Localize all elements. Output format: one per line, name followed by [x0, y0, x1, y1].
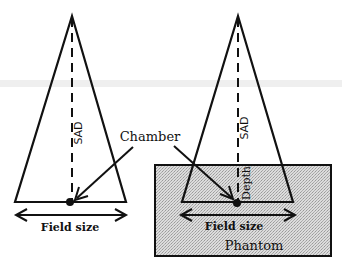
- depth-label: Depth: [240, 166, 253, 200]
- right-field-size-label: Field size: [205, 220, 263, 233]
- chamber-label: Chamber: [120, 129, 181, 144]
- left-setup: Field size SAD: [15, 16, 126, 234]
- phantom-label: Phantom: [225, 238, 284, 253]
- left-sad-label: SAD: [72, 121, 85, 144]
- left-field-size-label: Field size: [41, 221, 99, 234]
- left-beam-triangle: [15, 16, 126, 202]
- left-chamber-dot: [66, 198, 74, 206]
- right-sad-label: SAD: [238, 116, 251, 139]
- diagram-canvas: Field size SAD Field size SAD Depth Phan…: [0, 0, 342, 270]
- chamber-pointer-left: [77, 147, 133, 198]
- left-field-size-arrow: [16, 209, 126, 221]
